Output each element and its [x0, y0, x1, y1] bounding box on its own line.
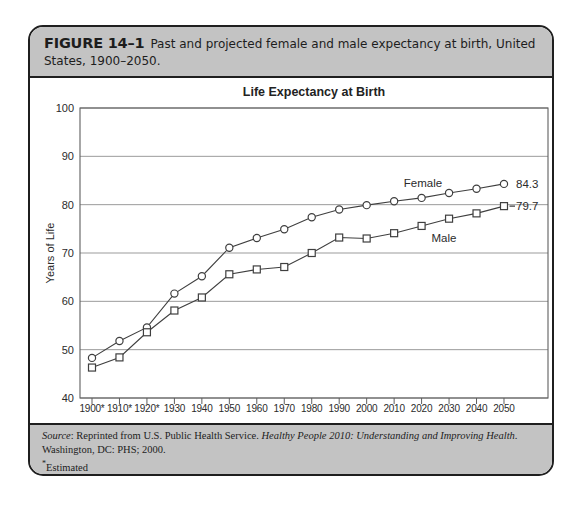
- x-tick-label-1920*: 1920*: [134, 403, 159, 414]
- female-marker-2040: [473, 185, 480, 192]
- y-tick-label-70: 70: [62, 247, 74, 259]
- female-marker-1940: [198, 273, 205, 280]
- male-marker-1910*: [116, 354, 123, 361]
- chart-area: Life Expectancy at Birth Years of Life 4…: [30, 78, 552, 423]
- x-tick-label-1940: 1940: [191, 403, 213, 414]
- figure-footer: Source: Reprinted from U.S. Public Healt…: [30, 423, 552, 474]
- figure-card: FIGURE 14–1Past and projected female and…: [28, 25, 554, 476]
- female-marker-1930: [171, 290, 178, 297]
- female-marker-2010: [391, 198, 398, 205]
- y-tick-label-90: 90: [62, 150, 74, 162]
- male-end-value-label: 79.7: [516, 200, 538, 212]
- figure-header: FIGURE 14–1Past and projected female and…: [30, 27, 552, 78]
- male-marker-1900*: [89, 364, 96, 371]
- male-marker-2040: [473, 210, 480, 217]
- female-marker-1900*: [88, 354, 95, 361]
- line-chart: 4050607080901001900*1910*1920*1930194019…: [30, 78, 552, 423]
- source-note: Source: Reprinted from U.S. Public Healt…: [42, 429, 540, 457]
- female-marker-1960: [253, 234, 260, 241]
- male-marker-1980: [308, 250, 315, 257]
- female-line: [92, 184, 504, 358]
- male-marker-1940: [198, 294, 205, 301]
- x-tick-label-1970: 1970: [274, 403, 296, 414]
- female-end-value-label: 84.3: [516, 178, 538, 190]
- male-marker-1920*: [143, 329, 150, 336]
- male-marker-1990: [336, 234, 343, 241]
- male-line: [92, 206, 504, 367]
- estimated-footnote: *Estimated: [42, 457, 540, 475]
- x-tick-label-1960: 1960: [246, 403, 268, 414]
- x-tick-label-1980: 1980: [301, 403, 323, 414]
- x-tick-label-1990: 1990: [328, 403, 350, 414]
- male-marker-1950: [226, 271, 233, 278]
- source-label: Source: [42, 430, 71, 441]
- y-tick-label-40: 40: [62, 392, 74, 404]
- male-marker-2030: [446, 215, 453, 222]
- female-marker-1970: [281, 226, 288, 233]
- x-tick-label-2020: 2020: [411, 403, 433, 414]
- x-tick-label-1930: 1930: [164, 403, 186, 414]
- male-marker-1960: [253, 266, 260, 273]
- x-tick-label-1950: 1950: [219, 403, 241, 414]
- female-series-label: Female: [404, 177, 442, 189]
- x-tick-label-1900*: 1900*: [79, 403, 104, 414]
- y-tick-label-50: 50: [62, 344, 74, 356]
- female-marker-1910*: [116, 337, 123, 344]
- figure-number-label: FIGURE 14–1: [44, 35, 144, 51]
- x-tick-label-1910*: 1910*: [107, 403, 132, 414]
- y-tick-label-60: 60: [62, 295, 74, 307]
- y-tick-label-80: 80: [62, 199, 74, 211]
- page: { "figure_header": { "label": "FIGURE 14…: [0, 0, 579, 506]
- female-marker-2000: [363, 202, 370, 209]
- x-tick-label-2050: 2050: [493, 403, 515, 414]
- source-book-title: Healthy People 2010: Understanding and I…: [262, 430, 515, 441]
- male-marker-2020: [418, 222, 425, 229]
- male-marker-2010: [391, 230, 398, 237]
- female-marker-1980: [308, 214, 315, 221]
- x-tick-label-2040: 2040: [466, 403, 488, 414]
- x-tick-label-2010: 2010: [383, 403, 405, 414]
- female-marker-1990: [336, 206, 343, 213]
- source-text-1: : Reprinted from U.S. Public Health Serv…: [71, 430, 262, 441]
- male-marker-1930: [171, 307, 178, 314]
- male-series-label: Male: [432, 232, 457, 244]
- female-marker-2030: [445, 189, 452, 196]
- male-marker-2000: [363, 235, 370, 242]
- female-marker-2020: [418, 194, 425, 201]
- y-tick-label-100: 100: [56, 102, 74, 114]
- x-tick-label-2000: 2000: [356, 403, 378, 414]
- male-marker-2050: [500, 203, 507, 210]
- x-tick-label-2030: 2030: [438, 403, 460, 414]
- female-marker-2050: [500, 180, 507, 187]
- male-marker-1970: [281, 264, 288, 271]
- estimated-text: Estimated: [46, 462, 88, 473]
- female-marker-1950: [226, 244, 233, 251]
